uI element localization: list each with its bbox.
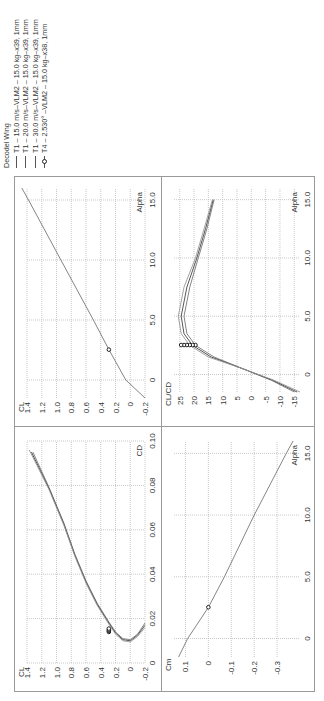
svg-text:0: 0 (126, 666, 135, 671)
svg-text:0.4: 0.4 (97, 666, 106, 678)
svg-text:5: 5 (233, 395, 242, 400)
svg-text:-0.2: -0.2 (141, 666, 150, 680)
svg-text:-5: -5 (262, 395, 271, 403)
svg-text:CL/CD: CL/CD (164, 382, 173, 406)
svg-text:-0.2: -0.2 (250, 660, 259, 674)
svg-text:0.6: 0.6 (82, 401, 91, 413)
svg-text:10.0: 10.0 (303, 507, 312, 523)
svg-text:10.0: 10.0 (303, 250, 312, 266)
svg-text:1.2: 1.2 (38, 401, 47, 413)
svg-text:0: 0 (148, 660, 157, 665)
svg-text:0.1: 0.1 (181, 660, 190, 672)
svg-text:0.4: 0.4 (97, 401, 106, 413)
svg-text:Cm: Cm (164, 658, 173, 671)
svg-text:-0.2: -0.2 (141, 401, 150, 415)
chart-cl-vs-cd: 00.020.040.060.080.101.41.21.00.80.60.40… (15, 427, 161, 691)
svg-text:0: 0 (303, 636, 312, 641)
svg-text:0.8: 0.8 (67, 401, 76, 413)
legend-entry: T1 – 15.0 m/s–VLM2 – 15.0 kg–x39, 1mm (12, 0, 22, 168)
svg-text:-0.3: -0.3 (273, 660, 282, 674)
svg-text:0.10: 0.10 (148, 433, 157, 449)
svg-text:10.0: 10.0 (148, 252, 157, 268)
svg-text:0.02: 0.02 (148, 610, 157, 626)
svg-text:1.0: 1.0 (53, 401, 62, 413)
svg-text:5.0: 5.0 (303, 571, 312, 583)
legend-line-icon (21, 156, 30, 168)
svg-text:0: 0 (303, 372, 312, 377)
svg-text:0: 0 (126, 401, 135, 406)
svg-text:-10: -10 (276, 395, 285, 407)
svg-text:0.6: 0.6 (82, 666, 91, 678)
chart-grid-frame: 00.020.040.060.080.101.41.21.00.80.60.40… (14, 176, 315, 692)
svg-text:20: 20 (190, 395, 199, 404)
chart-cl-over-cd-vs-alpha: 05.010.015.02520151050-5-10-15CL/CDAlpha (162, 176, 315, 426)
svg-text:15: 15 (204, 395, 213, 404)
svg-text:1.0: 1.0 (53, 666, 62, 678)
legend-entry: T4 – 2.530° –VLM2 – 15.0 kg–x38, 1mm (40, 0, 50, 168)
svg-text:5.0: 5.0 (148, 314, 157, 326)
svg-text:1.2: 1.2 (38, 666, 47, 678)
svg-text:0.2: 0.2 (112, 666, 121, 678)
legend-line-icon (31, 156, 40, 168)
svg-text:0: 0 (247, 395, 256, 400)
svg-text:-0.1: -0.1 (227, 660, 236, 674)
svg-text:15.0: 15.0 (303, 191, 312, 207)
svg-text:5.0: 5.0 (303, 310, 312, 322)
svg-text:0: 0 (148, 377, 157, 382)
svg-text:0: 0 (204, 660, 213, 665)
svg-text:15.0: 15.0 (303, 445, 312, 461)
svg-text:15.0: 15.0 (148, 192, 157, 208)
svg-text:0.8: 0.8 (67, 666, 76, 678)
chart-cl-vs-alpha: 05.010.015.01.41.21.00.80.60.40.20-0.2CL… (15, 176, 161, 426)
svg-text:Alpha: Alpha (290, 191, 299, 212)
legend-title: Decodel Wing (2, 0, 12, 168)
legend: Decodel Wing T1 – 15.0 m/s–VLM2 – 15.0 k… (2, 0, 50, 168)
legend-line-marker-icon (40, 156, 49, 168)
legend-entry: T1 – 20.0 m/s–VLM2 – 15.0 kg–x39, 1mm (21, 0, 31, 168)
svg-text:25: 25 (176, 395, 185, 404)
svg-text:Alpha: Alpha (290, 444, 299, 465)
rotated-figure: Decodel Wing T1 – 15.0 m/s–VLM2 – 15.0 k… (0, 0, 324, 701)
svg-text:0.08: 0.08 (148, 477, 157, 493)
svg-text:10: 10 (219, 395, 228, 404)
svg-text:0.2: 0.2 (112, 401, 121, 413)
svg-text:CL: CL (17, 666, 26, 677)
svg-text:CD: CD (135, 445, 144, 457)
legend-entry: T1 – 30.0 m/s–VLM2 – 15.0 kg–x39, 1mm (31, 0, 41, 168)
svg-text:Alpha: Alpha (135, 191, 144, 212)
svg-text:0.04: 0.04 (148, 566, 157, 582)
svg-text:0.06: 0.06 (148, 521, 157, 537)
legend-line-icon (12, 156, 21, 168)
svg-text:-15: -15 (290, 395, 299, 407)
svg-text:CL: CL (17, 401, 26, 412)
chart-cm-vs-alpha: 05.010.015.00.10-0.1-0.2-0.3CmAlpha (162, 427, 315, 691)
